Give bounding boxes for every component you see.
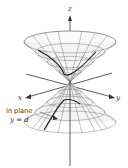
z-axis-label: z — [68, 6, 72, 13]
annotation-line2: y = d — [10, 117, 29, 124]
x-axis-arrow-icon — [25, 94, 31, 99]
y-axis-arrow-icon — [109, 94, 115, 99]
y-axis-label: y — [116, 95, 120, 102]
annotation-line1: In plane — [6, 108, 32, 115]
z-axis-arrow-icon — [68, 15, 72, 21]
double-cone-diagram — [0, 0, 128, 168]
x-axis-label: x — [18, 95, 22, 102]
